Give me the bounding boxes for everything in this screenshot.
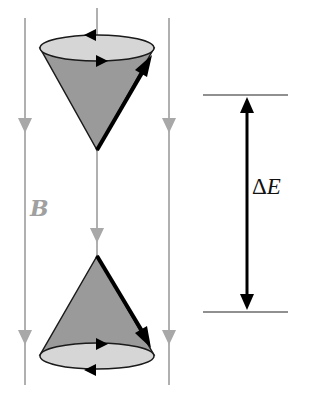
field-arrow-icon [18, 118, 32, 133]
energy-gap-arrow-down-icon [240, 294, 254, 310]
lower-cone [40, 256, 154, 376]
field-arrow-icon [162, 118, 176, 133]
field-arrow-icon [162, 330, 176, 345]
energy-gap-label: ΔE [252, 175, 281, 198]
field-arrow-icon [90, 228, 104, 243]
upper-cone [40, 29, 154, 150]
field-label-b: B [30, 197, 49, 219]
field-arrow-icon [18, 330, 32, 345]
energy-symbol: E [267, 174, 281, 199]
energy-gap-arrow-up-icon [240, 97, 254, 113]
delta-symbol: Δ [252, 174, 267, 199]
energy-gap [203, 95, 288, 312]
